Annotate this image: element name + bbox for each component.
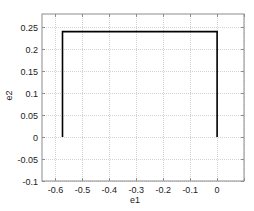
x-tick-label: -0.4 [102,185,118,195]
x-tick-label: -0.5 [75,185,91,195]
x-tick-label: -0.2 [155,185,171,195]
y-tick-label: 0.05 [20,111,38,121]
x-tick-label: -0.3 [129,185,145,195]
y-tick-label: 0.25 [20,23,38,33]
y-tick-label: 0.15 [20,67,38,77]
tick-marks [42,14,245,182]
y-tick-label: 0.2 [25,45,38,55]
y-tick-label: -0.05 [17,155,38,165]
x-axis-label: e1 [130,195,140,205]
y-tick-labels: -0.1-0.0500.050.10.150.20.25 [17,23,38,187]
y-axis-label: e2 [4,90,14,100]
x-tick-label: 0 [215,185,220,195]
x-tick-label: -0.1 [182,185,198,195]
axes-box [42,14,244,181]
x-tick-labels: -0.6-0.5-0.4-0.3-0.2-0.10 [48,185,220,195]
y-tick-label: 0 [33,133,38,143]
x-tick-label: -0.6 [48,185,64,195]
grid-lines [42,14,245,182]
y-tick-label: 0.1 [25,89,38,99]
chart: -0.6-0.5-0.4-0.3-0.2-0.10 -0.1-0.0500.05… [0,0,254,211]
data-line [63,32,218,138]
y-tick-label: -0.1 [22,177,38,187]
